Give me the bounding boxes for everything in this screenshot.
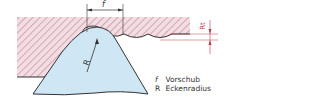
legend-text: Eckenradius: [165, 84, 211, 93]
legend: f Vorschub R Eckenradius: [155, 75, 211, 93]
feed-label: f: [102, 0, 105, 9]
legend-symbol: f: [155, 75, 163, 84]
legend-item-feed: f Vorschub: [155, 75, 211, 84]
legend-item-radius: R Eckenradius: [155, 84, 211, 93]
legend-symbol: R: [155, 84, 163, 93]
legend-text: Vorschub: [165, 75, 200, 84]
roughness-label: Rt: [199, 22, 207, 30]
